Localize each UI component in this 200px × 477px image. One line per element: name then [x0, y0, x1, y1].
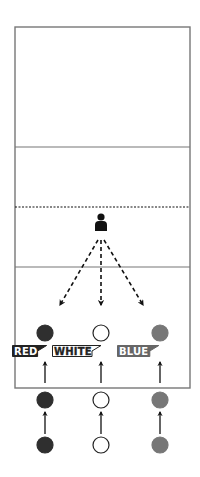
red-ball-2 [37, 437, 53, 453]
label-text: BLUE [119, 346, 148, 357]
white-ball-0 [93, 325, 109, 341]
blue-ball-2 [152, 437, 168, 453]
red-ball-0 [37, 325, 53, 341]
pass-arrow-2 [104, 240, 143, 305]
drill-diagram: REDWHITEBLUE [0, 0, 200, 477]
pass-arrows [60, 240, 143, 305]
label-text: RED [14, 346, 37, 357]
player-head [97, 213, 104, 220]
court-diagram [0, 0, 200, 477]
label-white: WHITE [52, 345, 102, 357]
label-red: RED [12, 345, 48, 357]
white-ball-2 [93, 437, 109, 453]
person-icon [95, 213, 107, 231]
red-ball-1 [37, 392, 53, 408]
player-body [95, 221, 107, 231]
pass-arrow-0 [60, 240, 98, 305]
white-ball-1 [93, 392, 109, 408]
label-text: WHITE [54, 346, 92, 357]
blue-ball-1 [152, 392, 168, 408]
blue-ball-0 [152, 325, 168, 341]
label-blue: BLUE [117, 345, 160, 357]
